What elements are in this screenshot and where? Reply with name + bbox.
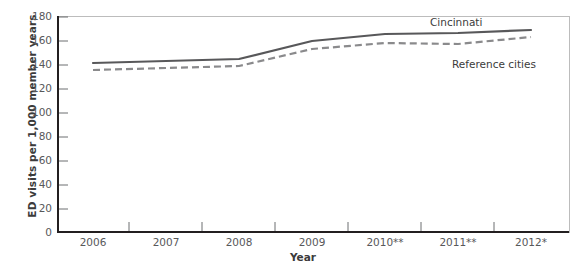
x-tick-label-2009: 2009 — [272, 236, 352, 248]
x-tick-label-2008: 2008 — [199, 236, 279, 248]
chart-canvas — [0, 0, 579, 276]
y-tick-label-160: 160 — [22, 35, 52, 46]
x-tick-label-2011: 2011** — [418, 236, 498, 248]
ed-visits-line-chart: ED visits per 1,000 member years 180 160… — [0, 0, 579, 276]
x-tick-label-2006: 2006 — [53, 236, 133, 248]
x-tick-label-2012: 2012* — [491, 236, 571, 248]
x-tick-label-2010: 2010** — [345, 236, 425, 248]
y-tick-label-100: 100 — [22, 107, 52, 118]
series-label-reference-cities: Reference cities — [452, 58, 536, 70]
y-tick-label-40: 40 — [22, 179, 52, 190]
y-tick-label-80: 80 — [22, 131, 52, 142]
y-tick-label-60: 60 — [22, 155, 52, 166]
x-axis-title: Year — [57, 251, 549, 263]
series-label-cincinnati: Cincinnati — [430, 16, 482, 28]
y-tick-label-20: 20 — [22, 203, 52, 214]
x-tick-label-2007: 2007 — [126, 236, 206, 248]
y-tick-label-180: 180 — [22, 11, 52, 22]
y-tick-label-0: 0 — [22, 227, 52, 238]
y-tick-label-120: 120 — [22, 83, 52, 94]
y-tick-label-140: 140 — [22, 59, 52, 70]
